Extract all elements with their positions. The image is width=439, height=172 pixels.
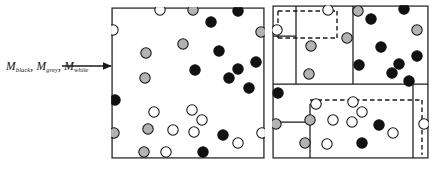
left-panel-unpartitioned-particle-white-18 xyxy=(197,115,207,125)
left-panel-unpartitioned-particle-grey-5 xyxy=(256,27,266,37)
right-panel-partitioned-particle-white-0 xyxy=(323,5,333,15)
right-panel-partitioned-particle-white-17 xyxy=(348,97,358,107)
left-panel-unpartitioned-particle-black-15 xyxy=(110,95,120,105)
right-panel-partitioned-particle-white-16 xyxy=(311,99,321,109)
left-panel-unpartitioned-outer-box xyxy=(112,8,264,158)
left-panel-unpartitioned-particle-black-11 xyxy=(233,64,243,74)
left-panel-unpartitioned-particle-white-21 xyxy=(189,127,199,137)
right-panel-partitioned-particle-grey-12 xyxy=(304,69,314,79)
right-panel-partitioned-particle-white-25 xyxy=(388,128,398,138)
right-panel-partitioned-particle-black-23 xyxy=(374,120,384,130)
right-panel-partitioned-particle-black-2 xyxy=(399,4,409,14)
right-panel-partitioned-particle-white-24 xyxy=(419,119,429,129)
left-panel-unpartitioned-particle-white-0 xyxy=(155,5,165,15)
left-panel-unpartitioned-particle-grey-7 xyxy=(141,48,151,58)
left-panel-unpartitioned-particle-white-3 xyxy=(108,25,118,35)
right-panel-partitioned-particle-grey-1 xyxy=(353,6,363,16)
figure-canvas xyxy=(0,0,439,172)
right-panel-partitioned-particle-grey-6 xyxy=(342,33,352,43)
left-panel-unpartitioned-particle-white-27 xyxy=(161,147,171,157)
right-panel-partitioned-particle-grey-7 xyxy=(306,41,316,51)
right-panel-partitioned-particle-grey-22 xyxy=(271,119,281,129)
right-panel-partitioned-particle-white-18 xyxy=(357,107,367,117)
right-panel-partitioned-particle-grey-26 xyxy=(300,138,310,148)
left-panel-unpartitioned xyxy=(108,5,267,158)
figure-container: Mblack, Mgrey, Mwhite xyxy=(0,0,439,172)
right-panel-partitioned-particle-grey-5 xyxy=(412,25,422,35)
left-panel-unpartitioned-particle-grey-22 xyxy=(109,128,119,138)
right-panel-partitioned-particle-black-15 xyxy=(273,88,283,98)
right-panel-partitioned-particle-black-11 xyxy=(394,59,404,69)
right-panel-partitioned-particle-black-10 xyxy=(354,60,364,70)
right-panel-partitioned-particle-black-13 xyxy=(387,68,397,78)
right-panel-partitioned xyxy=(271,4,429,158)
left-panel-unpartitioned-particle-black-10 xyxy=(190,65,200,75)
right-panel-partitioned-particle-white-3 xyxy=(272,25,282,35)
left-panel-unpartitioned-particle-grey-12 xyxy=(140,73,150,83)
right-panel-partitioned-particle-black-9 xyxy=(412,51,422,61)
left-panel-unpartitioned-particle-black-2 xyxy=(233,6,243,16)
left-panel-unpartitioned-particle-black-14 xyxy=(244,83,254,93)
right-panel-partitioned-particle-black-28 xyxy=(357,138,367,148)
left-panel-unpartitioned-particle-black-23 xyxy=(218,130,228,140)
right-panel-partitioned-particle-black-4 xyxy=(366,14,376,24)
left-panel-unpartitioned-particle-white-17 xyxy=(187,105,197,115)
left-panel-unpartitioned-particle-white-24 xyxy=(257,128,267,138)
left-panel-unpartitioned-particle-white-16 xyxy=(149,107,159,117)
left-panel-unpartitioned-particle-grey-26 xyxy=(139,147,149,157)
left-panel-unpartitioned-particle-grey-6 xyxy=(178,39,188,49)
left-panel-unpartitioned-particle-black-8 xyxy=(214,46,224,56)
left-panel-unpartitioned-particle-grey-1 xyxy=(188,5,198,15)
left-panel-unpartitioned-particle-grey-19 xyxy=(143,124,153,134)
right-panel-partitioned-particle-black-14 xyxy=(404,76,414,86)
left-panel-unpartitioned-particle-white-20 xyxy=(168,125,178,135)
left-panel-unpartitioned-particle-black-9 xyxy=(251,57,261,67)
right-panel-partitioned-particle-white-27 xyxy=(322,139,332,149)
left-panel-unpartitioned-particle-black-13 xyxy=(224,73,234,83)
right-panel-partitioned-particle-white-21 xyxy=(347,117,357,127)
left-panel-unpartitioned-particle-white-25 xyxy=(233,138,243,148)
left-panel-unpartitioned-particle-black-4 xyxy=(206,17,216,27)
right-panel-partitioned-particle-black-8 xyxy=(376,42,386,52)
panels-layer xyxy=(108,4,429,158)
right-panel-partitioned-particle-white-20 xyxy=(328,115,338,125)
left-panel-unpartitioned-particle-black-28 xyxy=(198,147,208,157)
right-panel-partitioned-particle-grey-19 xyxy=(305,115,315,125)
